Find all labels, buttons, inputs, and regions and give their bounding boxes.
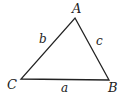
vertex-label-b: B <box>107 80 118 95</box>
triangle-abc <box>21 18 109 80</box>
vertex-label-c: C <box>7 77 17 92</box>
triangle-diagram: A B C a b c <box>0 0 118 97</box>
side-label-c: c <box>96 34 103 48</box>
side-label-a: a <box>61 81 68 95</box>
side-label-b: b <box>39 32 47 46</box>
vertex-label-a: A <box>71 1 81 16</box>
